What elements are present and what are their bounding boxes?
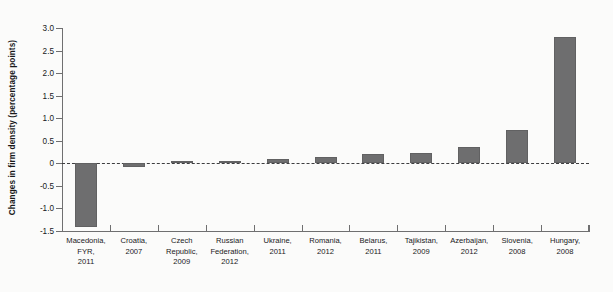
- x-tick-mark: [541, 225, 542, 232]
- x-tick-label: Belarus,2011: [349, 236, 397, 257]
- x-tick-mark: [589, 225, 590, 232]
- x-tick-label-line: 2009: [397, 247, 445, 258]
- x-tick-mark: [493, 225, 494, 232]
- x-tick-label-line: 2012: [302, 247, 350, 258]
- x-tick-label: Macedonia,FYR,2011: [62, 236, 110, 268]
- x-tick-label-line: 2011: [62, 257, 110, 268]
- x-tick-label: Hungary,2008: [541, 236, 589, 257]
- x-tick-label-line: Hungary,: [541, 236, 589, 247]
- x-tick-label-line: Tajikistan,: [397, 236, 445, 247]
- x-tick-mark: [110, 225, 111, 232]
- x-tick-label-line: 2012: [445, 247, 493, 258]
- x-tick-label: RussianFederation,2012: [206, 236, 254, 268]
- x-tick-label-line: Croatia,: [110, 236, 158, 247]
- x-tick-label-line: Romania,: [302, 236, 350, 247]
- x-tick-label-line: 2008: [493, 247, 541, 258]
- y-tick-label: 1.5: [20, 91, 54, 100]
- x-tick-mark: [158, 225, 159, 232]
- x-tick-mark: [397, 225, 398, 232]
- x-tick-mark: [302, 225, 303, 232]
- x-tick-label-line: 2011: [254, 247, 302, 258]
- x-tick-label-line: 2011: [349, 247, 397, 258]
- x-tick-label-line: Macedonia,: [62, 236, 110, 247]
- x-axis-ticks-and-labels: Macedonia,FYR,2011Croatia,2007CzechRepub…: [62, 0, 589, 292]
- x-tick-label: Romania,2012: [302, 236, 350, 257]
- y-tick-label: -1.5: [20, 226, 54, 235]
- x-tick-mark: [206, 225, 207, 232]
- y-tick-label: 3.0: [20, 24, 54, 33]
- x-tick-label-line: 2008: [541, 247, 589, 258]
- x-tick-mark: [445, 225, 446, 232]
- y-axis-title: Changes in firm density (percentage poin…: [6, 18, 20, 236]
- y-axis-title-text: Changes in firm density (percentage poin…: [9, 39, 18, 214]
- x-tick-label-line: Federation,: [206, 247, 254, 258]
- x-tick-mark: [254, 225, 255, 232]
- bar-chart: Changes in firm density (percentage poin…: [0, 0, 613, 292]
- x-tick-label: Azerbaijan,2012: [445, 236, 493, 257]
- y-tick-label: -0.5: [20, 181, 54, 190]
- x-tick-label-line: Russian: [206, 236, 254, 247]
- x-tick-mark: [349, 225, 350, 232]
- y-tick-label: 0: [20, 159, 54, 168]
- x-tick-label-line: Czech: [158, 236, 206, 247]
- x-tick-label-line: Slovenia,: [493, 236, 541, 247]
- y-tick-label: 2.5: [20, 46, 54, 55]
- y-tick-label: 2.0: [20, 69, 54, 78]
- y-tick-label: 1.0: [20, 114, 54, 123]
- y-tick-label: -1.0: [20, 204, 54, 213]
- x-tick-label: CzechRepublic,2009: [158, 236, 206, 268]
- y-tick-label: 0.5: [20, 136, 54, 145]
- x-tick-label-line: 2007: [110, 247, 158, 258]
- x-tick-label: Ukraine,2011: [254, 236, 302, 257]
- x-tick-label: Slovenia,2008: [493, 236, 541, 257]
- x-tick-label-line: Republic,: [158, 247, 206, 258]
- x-tick-label-line: 2009: [158, 257, 206, 268]
- x-tick-label-line: Ukraine,: [254, 236, 302, 247]
- x-tick-label: Tajikistan,2009: [397, 236, 445, 257]
- x-tick-label: Croatia,2007: [110, 236, 158, 257]
- x-tick-label-line: FYR,: [62, 247, 110, 258]
- x-tick-label-line: Belarus,: [349, 236, 397, 247]
- x-tick-mark: [62, 225, 63, 232]
- x-tick-label-line: Azerbaijan,: [445, 236, 493, 247]
- x-tick-label-line: 2012: [206, 257, 254, 268]
